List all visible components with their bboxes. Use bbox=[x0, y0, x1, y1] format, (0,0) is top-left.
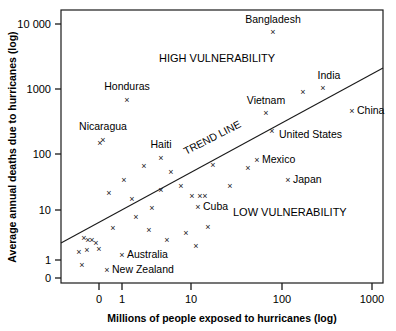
data-point-mexico: × bbox=[254, 155, 259, 165]
data-point: × bbox=[168, 167, 173, 177]
data-point: × bbox=[193, 241, 198, 251]
point-label-honduras: Honduras bbox=[104, 80, 150, 92]
data-point: × bbox=[158, 185, 163, 195]
data-point: × bbox=[178, 181, 183, 191]
point-label-japan: Japan bbox=[293, 173, 322, 185]
data-point: × bbox=[245, 163, 250, 173]
point-label-haiti: Haiti bbox=[150, 138, 171, 150]
data-point: × bbox=[149, 203, 154, 213]
data-point-china: × bbox=[349, 106, 354, 116]
data-point: × bbox=[106, 188, 111, 198]
x-tick-label-1: 1 bbox=[119, 293, 125, 305]
scatter-chart: 10 000 1000 100 10 1 0 0 1 10 100 1000 M… bbox=[0, 0, 396, 331]
y-tick-label-0: 0 bbox=[45, 272, 51, 284]
x-tick-label-0: 0 bbox=[96, 293, 102, 305]
data-point-cuba: × bbox=[195, 202, 200, 212]
point-label-mexico: Mexico bbox=[262, 153, 295, 165]
data-point-india: × bbox=[320, 83, 325, 93]
x-tick-label-1000: 1000 bbox=[360, 293, 384, 305]
data-points-unlabeled: ××××××××××××××××××××××××××××××× bbox=[76, 87, 305, 270]
data-point-japan: × bbox=[285, 175, 290, 185]
data-point-haiti: × bbox=[158, 153, 163, 163]
data-point: × bbox=[146, 225, 151, 235]
x-tick-label-100: 100 bbox=[273, 293, 291, 305]
data-point: × bbox=[189, 191, 194, 201]
point-label-bangladesh: Bangladesh bbox=[245, 13, 301, 25]
data-point: × bbox=[76, 247, 81, 257]
data-point: × bbox=[79, 260, 84, 270]
x-tick-label-10: 10 bbox=[185, 293, 197, 305]
y-tick-label-10000: 10 000 bbox=[17, 18, 51, 30]
data-point-united-states: × bbox=[269, 126, 274, 136]
y-tick-label-1000: 1000 bbox=[27, 83, 51, 95]
annotation-trend-line: TREND LINE bbox=[181, 118, 242, 157]
data-point: × bbox=[133, 212, 138, 222]
point-label-vietnam: Vietnam bbox=[247, 94, 286, 106]
x-axis-title: Millions of people exposed to hurricanes… bbox=[107, 312, 336, 324]
annotation-high-vulnerability: HIGH VULNERABILITY bbox=[159, 52, 276, 64]
point-label-cuba: Cuba bbox=[203, 200, 228, 212]
data-point: × bbox=[84, 245, 89, 255]
data-point: × bbox=[129, 194, 134, 204]
point-label-new-zealand: New Zealand bbox=[112, 263, 174, 275]
data-point: × bbox=[110, 223, 115, 233]
point-label-nicaragua: Nicaragua bbox=[79, 120, 127, 132]
data-point-australia: × bbox=[119, 250, 124, 260]
data-point: × bbox=[227, 181, 232, 191]
data-point: × bbox=[210, 160, 215, 170]
data-point-new-zealand: × bbox=[104, 265, 109, 275]
plot-frame bbox=[61, 10, 383, 283]
y-axis-ticks bbox=[55, 24, 61, 278]
data-point-nicaragua: × bbox=[100, 135, 105, 145]
x-axis-ticks bbox=[99, 283, 372, 290]
y-tick-label-1: 1 bbox=[45, 254, 51, 266]
point-label-united-states: United States bbox=[279, 128, 342, 140]
data-point: × bbox=[121, 175, 126, 185]
data-point-bangladesh: × bbox=[270, 27, 275, 37]
y-tick-label-10: 10 bbox=[39, 204, 51, 216]
y-tick-label-100: 100 bbox=[33, 148, 51, 160]
data-point-honduras: × bbox=[124, 95, 129, 105]
data-point: × bbox=[164, 235, 169, 245]
y-axis-title: Average annual deaths due to hurricanes … bbox=[6, 31, 18, 262]
data-point: × bbox=[96, 244, 101, 254]
data-point: × bbox=[141, 161, 146, 171]
annotation-low-vulnerability: LOW VULNERABILITY bbox=[233, 206, 347, 218]
data-point-vietnam: × bbox=[263, 108, 268, 118]
data-point: × bbox=[205, 222, 210, 232]
point-label-india: India bbox=[318, 69, 341, 81]
point-label-australia: Australia bbox=[127, 248, 168, 260]
point-label-china: China bbox=[357, 104, 385, 116]
data-point: × bbox=[183, 228, 188, 238]
hurricane-vulnerability-figure: 10 000 1000 100 10 1 0 0 1 10 100 1000 M… bbox=[0, 0, 396, 331]
data-point: × bbox=[300, 87, 305, 97]
